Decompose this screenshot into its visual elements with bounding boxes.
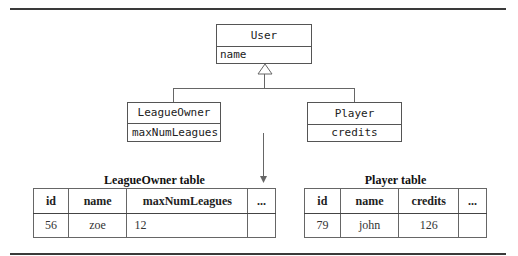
column-header-ellipsis: ... xyxy=(248,189,276,214)
class-user: User name xyxy=(216,24,312,64)
class-player-name: Player xyxy=(308,103,401,125)
bottom-rule xyxy=(10,253,506,255)
column-header-name: name xyxy=(340,189,399,214)
column-header-credits: credits xyxy=(399,189,459,214)
player-table-title: Player table xyxy=(304,173,487,187)
column-header-id: id xyxy=(34,189,69,214)
column-header-maxnumleagues: maxNumLeagues xyxy=(127,189,248,214)
cell-id: 79 xyxy=(305,214,341,238)
cell-id: 56 xyxy=(34,214,69,238)
inheritance-branch-right xyxy=(354,88,355,102)
cell-name: john xyxy=(340,214,399,238)
class-league-owner-attribute: maxNumLeagues xyxy=(128,124,220,141)
class-league-owner: LeagueOwner maxNumLeagues xyxy=(127,102,221,142)
class-player-attribute: credits xyxy=(308,125,401,141)
column-header-ellipsis: ... xyxy=(459,189,487,214)
top-rule xyxy=(10,8,506,10)
cell-credits: 126 xyxy=(399,214,459,238)
cell-name: zoe xyxy=(68,214,127,238)
inheritance-horizontal xyxy=(173,88,355,89)
column-header-name: name xyxy=(68,189,127,214)
table-row: 79 john 126 xyxy=(305,214,487,238)
league-owner-table-title: LeagueOwner table xyxy=(33,173,276,187)
league-owner-table: id name maxNumLeagues ... 56 zoe 12 xyxy=(33,188,276,238)
player-table: id name credits ... 79 john 126 xyxy=(304,188,487,238)
class-player: Player credits xyxy=(307,102,402,142)
cell-ellipsis xyxy=(459,214,487,238)
column-header-id: id xyxy=(305,189,341,214)
class-user-attribute: name xyxy=(217,47,311,63)
cell-ellipsis xyxy=(248,214,276,238)
inheritance-triangle-icon xyxy=(256,63,274,75)
table-row: 56 zoe 12 xyxy=(34,214,276,238)
class-user-name: User xyxy=(217,25,311,47)
inheritance-branch-left xyxy=(173,88,174,102)
table-header-row: id name maxNumLeagues ... xyxy=(34,189,276,214)
table-header-row: id name credits ... xyxy=(305,189,487,214)
inheritance-stem xyxy=(264,74,265,88)
class-league-owner-name: LeagueOwner xyxy=(128,103,220,124)
cell-maxnumleagues: 12 xyxy=(127,214,248,238)
